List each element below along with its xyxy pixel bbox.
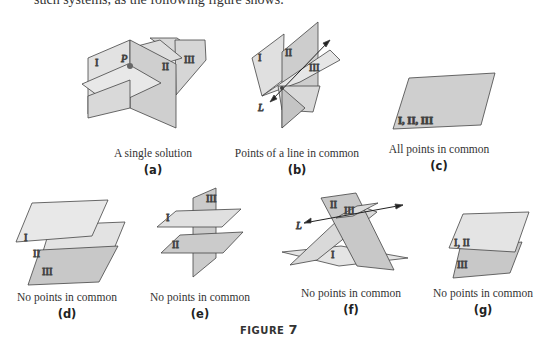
plane-label: II bbox=[285, 47, 292, 58]
plane-label: III bbox=[184, 54, 195, 65]
plane-label: III bbox=[344, 205, 355, 216]
plane-label: I bbox=[258, 52, 262, 63]
label-g: (g) bbox=[468, 303, 498, 317]
plane-label: I, II, III bbox=[398, 115, 433, 126]
caption-c: All points in common bbox=[384, 143, 494, 155]
panel-a-diagram: I II III P bbox=[82, 38, 206, 128]
label-b: (b) bbox=[282, 163, 312, 177]
panel-d-diagram: I II III bbox=[16, 200, 125, 285]
panel-e-diagram: I II III bbox=[157, 188, 243, 277]
caption-d: No points in common bbox=[12, 291, 122, 303]
figure-title: FIGURE 7 bbox=[0, 322, 538, 337]
panel-b-diagram: I II III L bbox=[252, 22, 340, 128]
label-c: (c) bbox=[424, 159, 454, 173]
line-label: L bbox=[295, 220, 302, 231]
point-label: P bbox=[120, 53, 128, 64]
plane-label: III bbox=[457, 259, 468, 270]
plane-label: I, II bbox=[454, 237, 470, 248]
caption-g: No points in common bbox=[428, 287, 538, 299]
plane-label: I bbox=[24, 232, 28, 243]
plane-label: I bbox=[166, 212, 170, 223]
label-f: (f) bbox=[336, 303, 366, 317]
panel-g-diagram: I, II III bbox=[449, 212, 529, 278]
plane-label: II bbox=[33, 248, 40, 259]
caption-f: No points in common bbox=[296, 287, 406, 299]
line-label: L bbox=[257, 102, 264, 113]
plane-label: III bbox=[42, 266, 53, 277]
panel-c-diagram: I, II, III bbox=[393, 73, 495, 129]
figure-title-number: 7 bbox=[288, 322, 298, 337]
figure-title-prefix: FIGURE bbox=[240, 325, 284, 336]
label-a: (a) bbox=[138, 163, 168, 177]
caption-e: No points in common bbox=[145, 291, 255, 303]
plane-label: I bbox=[331, 249, 335, 260]
plane-label: I bbox=[95, 57, 99, 68]
plane-label: II bbox=[330, 199, 337, 210]
label-d: (d) bbox=[52, 307, 82, 321]
caption-b: Points of a line in common bbox=[232, 147, 362, 159]
panel-f-diagram: II III I L bbox=[282, 193, 408, 270]
plane-label: III bbox=[206, 193, 217, 204]
plane-label: III bbox=[309, 62, 320, 73]
plane-label: II bbox=[162, 61, 169, 72]
plane-label: II bbox=[172, 239, 179, 250]
caption-a: A single solution bbox=[98, 147, 208, 159]
label-e: (e) bbox=[185, 307, 215, 321]
